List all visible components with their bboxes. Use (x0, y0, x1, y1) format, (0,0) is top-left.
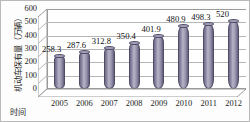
value-label-2005: 258.3 (42, 45, 61, 54)
y-tick-0: 0 (33, 85, 37, 93)
plot-area: 258.3287.6312.8350.4401.9480.9498.3520 (38, 9, 246, 97)
bar-cap (203, 22, 214, 26)
value-label-2012: 520 (216, 10, 229, 19)
bar-cap (129, 41, 140, 45)
y-tick-400: 400 (24, 32, 37, 40)
value-label-2009: 401.9 (141, 25, 160, 34)
bar-cap (228, 19, 239, 23)
bar-2011[interactable] (203, 23, 214, 89)
bar-cap (79, 50, 90, 54)
x-tick-2012: 2012 (215, 99, 250, 108)
value-label-2011: 498.3 (191, 13, 210, 22)
bar-2010[interactable] (178, 25, 189, 89)
y-tick-300: 300 (24, 45, 37, 53)
y-axis-tick-labels: 0100200300400500600 (15, 9, 37, 97)
y-tick-200: 200 (24, 58, 37, 66)
bar-cap (104, 46, 115, 50)
value-label-2008: 350.4 (117, 32, 136, 41)
value-label-2006: 287.6 (67, 41, 86, 50)
bar-2012[interactable] (228, 20, 239, 89)
chart-figure: 机动车保有量（万辆） 时间 0100200300400500600 258 (0, 0, 250, 122)
y-tick-500: 500 (24, 18, 37, 26)
bar-cap (153, 34, 164, 38)
x-axis-title: 时间 (10, 105, 26, 117)
bar-cap (54, 54, 65, 58)
y-tick-600: 600 (24, 5, 37, 13)
x-axis-tick-labels: 20052006200720082009201020112012 (34, 99, 249, 111)
chart-floor (38, 81, 246, 97)
value-label-2010: 480.9 (166, 15, 185, 24)
bar-cap (178, 24, 189, 28)
y-tick-100: 100 (24, 72, 37, 80)
value-label-2007: 312.8 (92, 37, 111, 46)
